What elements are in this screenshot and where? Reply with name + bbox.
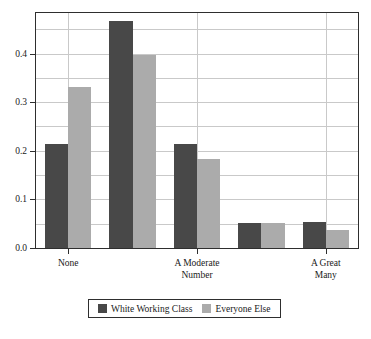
x-tick-label: A Great Many bbox=[303, 258, 348, 281]
x-tick-mark bbox=[68, 249, 69, 254]
bar-chart-figure: 0.00.10.20.30.4 NoneA Moderate NumberA G… bbox=[0, 0, 371, 339]
legend-entry-everyone-else: Everyone Else bbox=[202, 304, 270, 314]
legend-label: Everyone Else bbox=[215, 304, 270, 314]
x-tick-label: None bbox=[58, 258, 79, 270]
x-tick-mark bbox=[326, 249, 327, 254]
light-swatch-icon bbox=[202, 304, 211, 313]
chart-legend: White Working Class Everyone Else bbox=[88, 299, 281, 318]
legend-entry-white-working-class: White Working Class bbox=[98, 304, 192, 314]
x-tick-label: A Moderate Number bbox=[174, 258, 219, 281]
legend-label: White Working Class bbox=[111, 304, 192, 314]
x-tick-mark bbox=[197, 249, 198, 254]
x-axis: NoneA Moderate NumberA Great Many bbox=[0, 0, 371, 339]
dark-swatch-icon bbox=[98, 304, 107, 313]
